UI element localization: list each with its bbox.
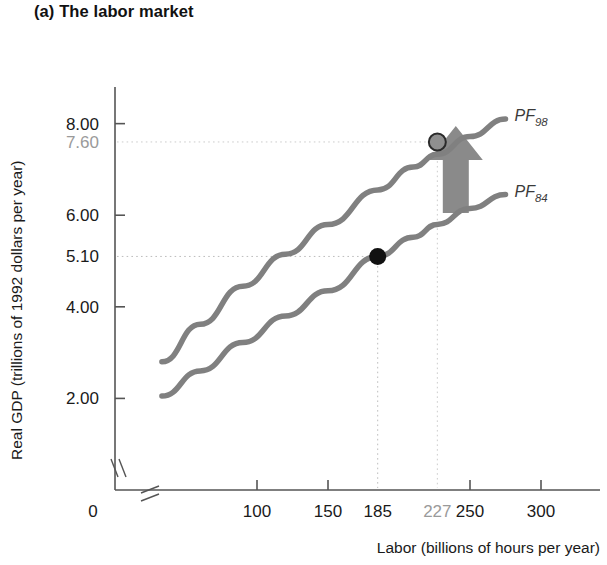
tick-marks [115, 124, 541, 490]
curve-labels: PF98PF84 [515, 107, 549, 204]
point-pf98 [429, 133, 446, 150]
x-tick-label-300: 300 [527, 502, 555, 521]
curve-label-subscript: 98 [535, 116, 548, 128]
curve-label-pf-84: PF84 [515, 183, 548, 204]
x-tick-label-0: 0 [88, 502, 97, 521]
curve-label-subscript: 84 [535, 192, 548, 204]
y-axis-break [111, 459, 126, 477]
x-tick-label-100: 100 [243, 502, 271, 521]
point-pf84 [369, 248, 386, 265]
y-tick-label-5.10: 5.10 [66, 247, 99, 266]
y-axis-title: Real GDP (trillions of 1992 dollars per … [8, 160, 25, 460]
x-axis-break [141, 486, 159, 501]
break-slash [141, 494, 159, 501]
curve-label-base: PF [515, 107, 537, 124]
y-tick-label-2.00: 2.00 [66, 389, 99, 408]
curve-label-pf-98: PF98 [515, 107, 549, 128]
tick-labels: 8.007.606.005.104.002.000100150185227250… [66, 115, 555, 521]
x-tick-label-150: 150 [314, 502, 342, 521]
curve-label-base: PF [515, 183, 537, 200]
y-tick-label-6.00: 6.00 [66, 206, 99, 225]
y-tick-label-8.00: 8.00 [66, 115, 99, 134]
y-tick-label-4.00: 4.00 [66, 298, 99, 317]
x-tick-label-227: 227 [423, 502, 451, 521]
break-slash [119, 459, 126, 477]
x-tick-label-185: 185 [364, 502, 392, 521]
axes [111, 87, 600, 501]
y-tick-label-7.60: 7.60 [66, 133, 99, 152]
figure-panel: (a) The labor market PF98PF848.007.606.0… [0, 0, 607, 565]
x-axis-title: Labor (billions of hours per year) [377, 539, 600, 556]
x-tick-label-250: 250 [456, 502, 484, 521]
production-function-chart: PF98PF848.007.606.005.104.002.0001001501… [0, 0, 607, 565]
